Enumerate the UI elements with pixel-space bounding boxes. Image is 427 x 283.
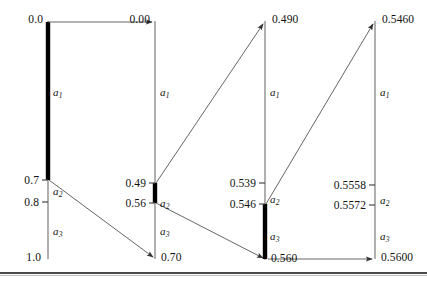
value-label-stage-4-1: 0.5558 [334, 179, 366, 191]
value-label-stage-1-2: 0.8 [24, 196, 39, 208]
value-label-stage-3-1: 0.539 [230, 177, 256, 189]
connector-stage2-0.49-to-stage3-top [156, 24, 263, 183]
highlight-bar-stage-1 [46, 22, 50, 180]
segment-label-stage-2-a2: a2 [160, 197, 169, 209]
tick-marks-group [42, 180, 375, 205]
connector-stage1-0.7-to-stage2-bottom [49, 180, 153, 257]
connector-stage2-0.56-to-stage3-bottom [156, 203, 263, 258]
value-label-stage-3-0: 0.490 [272, 13, 298, 25]
highlight-bars-group [46, 22, 267, 259]
value-label-stage-4-3: 0.5600 [381, 251, 413, 263]
highlight-bar-stage-3 [263, 204, 267, 259]
segment-label-stage-2-a1: a1 [160, 86, 169, 98]
segment-label-stage-3-a1: a1 [270, 86, 279, 98]
segment-label-stage-1-a3: a3 [53, 225, 62, 237]
value-label-stage-2-0: 0.00 [129, 13, 150, 25]
value-label-stage-4-2: 0.5572 [334, 199, 366, 211]
connector-stage3-0.546-to-stage4-top [266, 24, 373, 204]
segment-label-stage-3-a3: a3 [270, 230, 279, 242]
value-label-stage-3-3: 0.560 [271, 252, 297, 264]
value-label-stage-4-0: 0.5460 [382, 13, 414, 25]
segment-label-stage-2-a3: a3 [160, 225, 169, 237]
segment-label-stage-1-a2: a2 [53, 185, 62, 197]
value-label-stage-3-2: 0.546 [230, 198, 256, 210]
connector-arrows-group [48, 22, 373, 259]
highlight-bar-stage-2 [153, 183, 157, 203]
segment-label-stage-3-a2: a2 [270, 193, 279, 205]
bottom-rule [0, 272, 427, 274]
segment-label-stage-1-a1: a1 [53, 86, 62, 98]
value-label-stage-1-3: 1.0 [26, 251, 41, 263]
value-label-stage-1-0: 0.0 [28, 13, 43, 25]
value-label-stage-2-3: 0.70 [161, 251, 182, 263]
segment-label-stage-4-a2: a2 [380, 194, 389, 206]
value-label-stage-2-2: 0.56 [125, 197, 146, 209]
segment-label-stage-4-a1: a1 [380, 86, 389, 98]
axes-group [48, 21, 375, 260]
diagram-svg [0, 0, 427, 283]
figure-canvas: 0.00.70.81.0a1a2a30.000.490.560.70a1a2a3… [0, 0, 427, 283]
bottom-rule-shadow [0, 275, 427, 276]
segment-label-stage-4-a3: a3 [380, 230, 389, 242]
value-label-stage-2-1: 0.49 [125, 177, 146, 189]
value-label-stage-1-1: 0.7 [24, 174, 39, 186]
